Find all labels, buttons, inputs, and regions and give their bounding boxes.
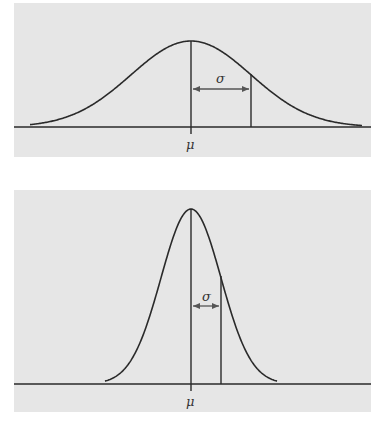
diagram-canvas	[0, 0, 390, 433]
bell-curve	[30, 41, 362, 126]
sigma-label-bottom: σ	[202, 290, 211, 303]
mean-label-top: μ	[186, 138, 194, 151]
wide-distribution-figure	[14, 41, 371, 134]
narrow-distribution-figure	[14, 209, 371, 391]
mean-label-bottom: μ	[186, 395, 194, 408]
sigma-label-top: σ	[216, 72, 225, 85]
